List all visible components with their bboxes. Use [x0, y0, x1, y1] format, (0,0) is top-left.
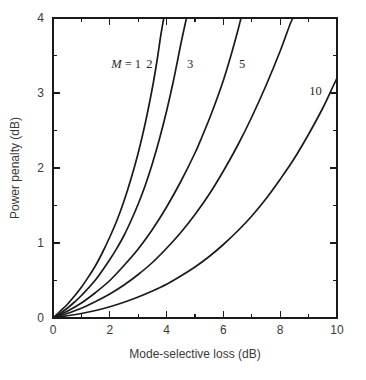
ticks-group	[53, 18, 337, 318]
axes-group	[53, 18, 337, 318]
curve-label-m-3: 3	[187, 57, 193, 71]
curve-m-5	[53, 18, 293, 318]
y-tick-label: 2	[37, 161, 44, 175]
curve-label-m-10: 10	[309, 84, 322, 98]
x-tick-label: 6	[220, 323, 227, 337]
power-penalty-chart: 024681001234 M= 123510 Mode-selective lo…	[0, 0, 366, 380]
y-tick-label: 1	[37, 236, 44, 250]
y-tick-label: 0	[37, 311, 44, 325]
curve-label-m-1: M= 1	[110, 57, 141, 71]
y-tick-label: 4	[37, 11, 44, 25]
curve-label-m-5: 5	[239, 57, 245, 71]
y-tick-label: 3	[37, 86, 44, 100]
curves-group	[53, 18, 337, 318]
x-tick-label: 8	[277, 323, 284, 337]
x-tick-label: 10	[330, 323, 344, 337]
x-tick-label: 0	[50, 323, 57, 337]
y-axis-title: Power penalty (dB)	[8, 117, 22, 219]
x-tick-label: 4	[163, 323, 170, 337]
curve-m-10	[53, 78, 337, 318]
curve-label-m-2: 2	[146, 57, 152, 71]
x-axis-title: Mode-selective loss (dB)	[129, 347, 260, 361]
figure-container: 024681001234 M= 123510 Mode-selective lo…	[0, 0, 366, 380]
x-tick-label: 2	[106, 323, 113, 337]
plot-frame	[53, 18, 337, 318]
curve-labels-group: M= 123510	[110, 57, 321, 97]
